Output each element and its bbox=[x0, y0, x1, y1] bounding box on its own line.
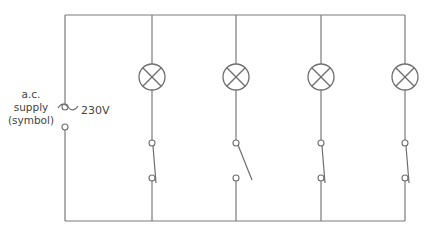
supply-label-line-1: a.c. bbox=[6, 88, 56, 101]
switch-4-terminal-top bbox=[402, 140, 408, 146]
ac-symbol-icon bbox=[57, 100, 79, 114]
switch-1-terminal-bottom bbox=[149, 175, 155, 181]
switch-4-terminal-bottom bbox=[402, 175, 408, 181]
supply-label-line-3: (symbol) bbox=[6, 114, 56, 127]
switch-3-terminal-top bbox=[318, 140, 324, 146]
supply-label: a.c. supply (symbol) bbox=[6, 88, 56, 127]
switch-2-terminal-bottom bbox=[233, 175, 239, 181]
switch-2-blade-open bbox=[238, 145, 252, 180]
switch-1-terminal-top bbox=[149, 140, 155, 146]
voltage-label: 230V bbox=[81, 104, 110, 117]
supply-label-line-2: supply bbox=[6, 101, 56, 114]
switch-3-terminal-bottom bbox=[318, 175, 324, 181]
circuit-diagram bbox=[0, 0, 430, 232]
supply-terminal-bottom bbox=[62, 124, 68, 130]
